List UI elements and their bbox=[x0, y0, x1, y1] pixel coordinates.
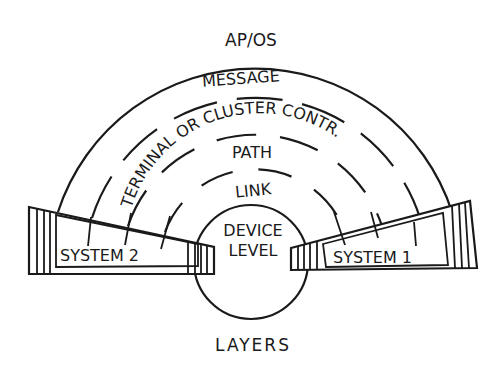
system-1-block: SYSTEM 1 bbox=[291, 201, 477, 270]
link-label: LINK bbox=[234, 179, 272, 202]
system-1-label: SYSTEM 1 bbox=[333, 248, 412, 267]
diagram-caption: LAYERS bbox=[215, 335, 291, 355]
message-label: MESSAGE bbox=[201, 66, 280, 90]
system-2-block: SYSTEM 2 bbox=[29, 207, 214, 274]
path-label: PATH bbox=[232, 143, 272, 162]
system-2-label: SYSTEM 2 bbox=[60, 246, 139, 265]
device-level-label-line2: LEVEL bbox=[229, 241, 278, 260]
layers-diagram: SYSTEM 2 SYSTEM 1 AP/OS MESSAGE TERMINAL… bbox=[0, 0, 503, 371]
ap-os-label: AP/OS bbox=[225, 30, 277, 50]
device-level-label-line1: DEVICE bbox=[223, 221, 282, 240]
